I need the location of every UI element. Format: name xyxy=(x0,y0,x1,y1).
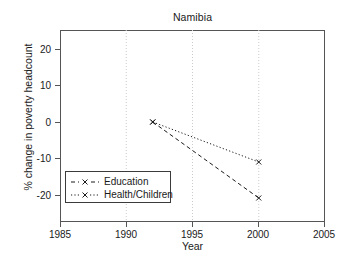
series-health-children xyxy=(150,120,261,165)
xtick-mark xyxy=(60,222,61,227)
x-axis-label: Year xyxy=(60,240,325,252)
xtick-label-1985: 1985 xyxy=(49,229,71,240)
xtick-label-1990: 1990 xyxy=(115,229,137,240)
xtick-mark xyxy=(192,222,193,227)
legend-label-health-children: Health/Children xyxy=(104,190,173,200)
legend-sample-dotted xyxy=(70,190,100,200)
legend-marker-x-icon xyxy=(83,180,88,185)
y-axis-label: % change in poverty headcount xyxy=(22,22,34,212)
legend-entry-education: Education xyxy=(70,175,148,189)
ytick-mark xyxy=(55,49,60,50)
legend-entry-health-children: Health/Children xyxy=(70,188,173,202)
legend-marker-x-icon xyxy=(83,193,88,198)
chart-figure: Namibia xyxy=(0,0,345,256)
ytick-mark xyxy=(55,85,60,86)
xtick-label-2005: 2005 xyxy=(313,229,335,240)
xtick-mark xyxy=(324,222,325,227)
xtick-mark xyxy=(126,222,127,227)
legend-label-education: Education xyxy=(104,177,148,187)
series-health-children-markers xyxy=(150,120,261,165)
legend-sample-dashed xyxy=(70,177,100,187)
xtick-label-2000: 2000 xyxy=(247,229,269,240)
ytick-mark xyxy=(55,195,60,196)
ytick-mark xyxy=(55,158,60,159)
xtick-label-1995: 1995 xyxy=(181,229,203,240)
chart-legend: Education Health/Children xyxy=(65,171,171,203)
ytick-mark xyxy=(55,122,60,123)
chart-title: Namibia xyxy=(60,11,325,23)
xtick-mark xyxy=(258,222,259,227)
